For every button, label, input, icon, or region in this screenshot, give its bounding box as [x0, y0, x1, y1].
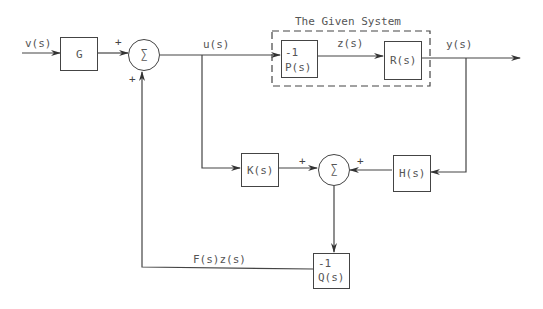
sum1-plus-bottom: + [129, 73, 136, 86]
block-r-label: R(s) [390, 55, 417, 66]
block-k-label: K(s) [247, 165, 274, 176]
signal-feedback-label: F(s)z(s) [193, 254, 246, 265]
sigma-icon: ∑ [319, 162, 349, 176]
block-g: G [60, 37, 98, 71]
signal-y-label: y(s) [446, 39, 473, 50]
sigma-icon: ∑ [129, 47, 159, 61]
signal-u-label: u(s) [203, 39, 230, 50]
block-p-denominator: P(s) [285, 62, 312, 73]
block-h-label: H(s) [399, 168, 426, 179]
given-system-title: The Given System [295, 16, 401, 27]
sum2-plus-right: + [357, 155, 364, 168]
block-q: -1 Q(s) [313, 253, 350, 289]
block-g-label: G [76, 49, 83, 60]
signal-v-label: v(s) [25, 38, 52, 49]
summing-junction-1: ∑ [128, 39, 160, 71]
signal-z-label: z(s) [337, 38, 364, 49]
block-k: K(s) [241, 153, 279, 187]
block-r: R(s) [384, 41, 422, 80]
block-q-numerator: -1 [318, 258, 331, 269]
summing-junction-2: ∑ [318, 154, 350, 186]
block-p-numerator: -1 [285, 47, 298, 58]
block-h: H(s) [393, 155, 431, 192]
sum2-plus-left: + [299, 155, 306, 168]
block-p: -1 P(s) [281, 40, 318, 78]
sum1-plus-top: + [115, 36, 122, 49]
block-q-denominator: Q(s) [318, 272, 345, 283]
